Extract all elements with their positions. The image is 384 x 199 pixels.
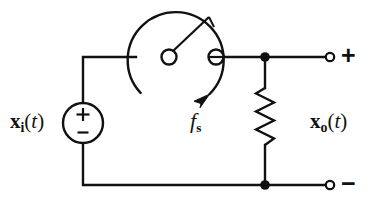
output-signal-label: xo(t) — [310, 111, 347, 135]
circuit-diagram-figure: xi(t) xo(t) fs + − — [0, 0, 384, 199]
sampling-frequency-label: fs — [190, 110, 201, 134]
output-signal-variable: x — [310, 109, 321, 133]
switch-pivot-contact — [162, 50, 177, 65]
negative-polarity-mark: − — [341, 171, 356, 196]
junction-dot-top — [260, 52, 270, 62]
output-signal-close-paren: ) — [340, 109, 347, 133]
input-voltage-source — [63, 103, 103, 143]
output-terminal-negative[interactable] — [326, 181, 334, 189]
junction-dot-bottom — [260, 180, 270, 190]
circuit-schematic-canvas — [0, 0, 384, 199]
positive-polarity-mark: + — [341, 43, 356, 68]
sampling-frequency-subscript: s — [196, 120, 201, 135]
input-signal-variable: x — [10, 109, 21, 133]
load-resistor — [256, 88, 274, 145]
input-signal-close-paren: ) — [37, 109, 44, 133]
wire-source-to-ground-rail — [83, 143, 265, 185]
input-signal-label: xi(t) — [10, 111, 44, 135]
rotation-direction-arrowhead — [194, 94, 210, 108]
output-terminal-positive[interactable] — [326, 53, 334, 61]
rotating-sampling-switch — [128, 12, 224, 108]
switch-arm — [173, 17, 209, 51]
